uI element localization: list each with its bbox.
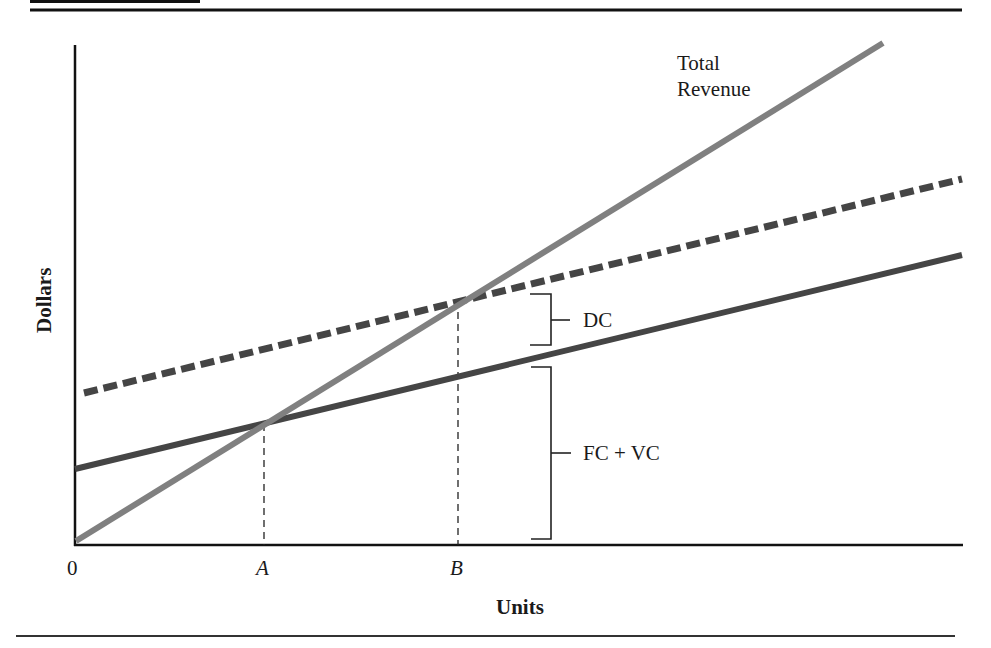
series-total-revenue [76,43,883,541]
fc-vc-label: FC + VC [583,443,660,464]
total-revenue-label-line1: Total [677,53,750,74]
y-axis-title: Dollars [34,268,55,333]
fc-vc-bracket [531,367,551,539]
total-revenue-label-line2: Revenue [677,79,750,100]
x-axis-title: Units [496,597,544,618]
break-even-chart: Total Revenue DC FC + VC 0 A B Units Dol… [0,0,991,648]
total-revenue-label: Total Revenue [677,53,750,100]
x-tick-origin: 0 [67,558,78,579]
dc-label: DC [583,310,612,331]
x-tick-a: A [256,558,269,579]
x-tick-b: B [450,558,463,579]
dc-bracket [530,294,551,345]
header-bar [30,0,200,3]
chart-canvas [0,0,991,648]
